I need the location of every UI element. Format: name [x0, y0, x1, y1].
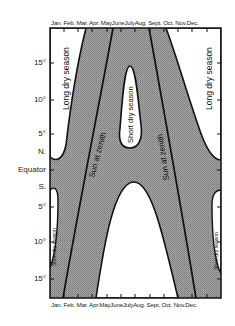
- month-oct: Oct.: [162, 301, 173, 308]
- label-short-dry-season-north: Short dry season: [126, 86, 135, 143]
- month-july: July: [123, 301, 133, 308]
- month-june: June: [110, 301, 123, 308]
- month-jan: Jan.: [51, 301, 62, 308]
- month-axis-bottom: Jan. Feb. Mar. Apr.MayJuneJulyAug. Sept.…: [51, 301, 197, 308]
- month-dec: Dec.: [185, 301, 197, 308]
- label-short-dry-season-se: Short dry season: [213, 232, 219, 270]
- month-sept: Sept.: [147, 301, 160, 308]
- seasons-diagram: Long dry season Long dry season Short dr…: [0, 0, 235, 326]
- label-long-dry-season-ne: Long dry season: [204, 47, 214, 110]
- month-mar: Mar.: [77, 301, 88, 308]
- label-short-dry-season-sw: Short dry season: [51, 228, 57, 266]
- label-long-dry-season-nw: Long dry season: [61, 47, 71, 110]
- month-nov: Nov.: [174, 301, 185, 308]
- month-may: May: [99, 301, 110, 308]
- month-feb: Feb.: [63, 301, 75, 308]
- month-apr: Apr.: [89, 301, 99, 308]
- month-aug: Aug.: [133, 301, 145, 308]
